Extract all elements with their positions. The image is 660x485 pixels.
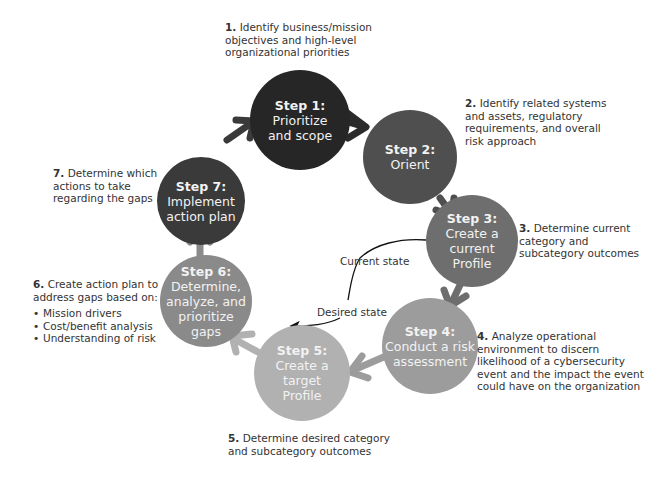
step-1-label-line: and scope <box>268 128 332 143</box>
note-4-line: Analyze operational <box>492 330 596 342</box>
step-7-circle: Step 7: Implement action plan <box>157 157 245 245</box>
arrow-step5-to-step6 <box>232 334 258 352</box>
note-3: 3. Determine current category and subcat… <box>519 222 639 260</box>
note-7: 7. Determine which actions to take regar… <box>53 167 157 205</box>
note-2-line: requirements, and overall <box>465 122 607 135</box>
step-6-circle: Step 6: Determine, analyze, and prioriti… <box>160 255 252 347</box>
step-3-circle: Step 3: Create a current Profile <box>426 195 518 287</box>
note-6-bullet: Understanding of risk <box>33 332 158 345</box>
current-state-label: Current state <box>340 255 409 267</box>
note-2-line: risk approach <box>465 135 607 148</box>
note-4-line: environment to discern <box>477 343 644 356</box>
step-3-label-line: Profile <box>453 256 492 271</box>
note-4-line: could have on the organization <box>477 380 644 393</box>
step-3-label-line: current <box>449 241 494 256</box>
note-3-line: subcategory outcomes <box>519 247 639 260</box>
note-3-number: 3. <box>519 222 530 234</box>
note-5-line: Determine desired category <box>243 432 390 444</box>
note-3-line: Determine current <box>534 222 631 234</box>
note-1-number: 1. <box>225 21 236 33</box>
step-4-label-line: assessment <box>393 354 467 369</box>
step-7-label-line: Implement <box>167 194 235 209</box>
step-7-title: Step 7: <box>176 179 226 194</box>
note-6-bullets: Mission drivers Cost/benefit analysis Un… <box>33 307 158 345</box>
note-6-bullet: Cost/benefit analysis <box>33 320 158 333</box>
note-5: 5. Determine desired category and subcat… <box>228 432 390 457</box>
step-6-label-line: gaps <box>191 324 221 339</box>
note-1: 1. Identify business/mission objectives … <box>225 21 372 59</box>
step-5-label-line: target <box>283 373 321 388</box>
note-6-number: 6. <box>33 278 44 290</box>
step-4-circle: Step 4: Conduct a risk assessment <box>382 298 478 394</box>
step-2-title: Step 2: <box>385 142 435 157</box>
note-3-line: category and <box>519 235 639 248</box>
step-6-title: Step 6: <box>181 264 231 279</box>
note-1-line: Identify business/mission <box>240 21 372 33</box>
note-1-line: organizational priorities <box>225 46 372 59</box>
step-1-title: Step 1: <box>275 98 325 113</box>
note-1-line: objectives and high-level <box>225 34 372 47</box>
step-6-label-line: prioritize <box>178 309 233 324</box>
step-1-circle: Step 1: Prioritize and scope <box>250 70 350 170</box>
note-4-line: event and the impact the event <box>477 368 644 381</box>
step-5-title: Step 5: <box>277 343 327 358</box>
step-6-label-line: Determine, <box>171 279 241 294</box>
step-3-title: Step 3: <box>447 211 497 226</box>
note-6: 6. Create action plan to address gaps ba… <box>33 278 158 345</box>
note-4-line: likelihood of a cybersecurity <box>477 355 644 368</box>
step-1-label-line: Prioritize <box>273 113 328 128</box>
step-2-circle: Step 2: Orient <box>363 110 457 204</box>
step-3-label-line: Create a <box>445 226 498 241</box>
note-7-line: regarding the gaps <box>53 192 157 205</box>
step-4-title: Step 4: <box>405 324 455 339</box>
step-5-label-line: Create a <box>275 358 328 373</box>
note-2-number: 2. <box>465 97 476 109</box>
step-5-label-line: Profile <box>283 388 322 403</box>
step-2-label-line: Orient <box>391 157 430 172</box>
note-2: 2. Identify related systems and assets, … <box>465 97 607 147</box>
note-7-line: actions to take <box>53 180 157 193</box>
desired-state-label: Desired state <box>317 306 387 318</box>
note-2-line: Identify related systems <box>480 97 607 109</box>
note-6-bullet: Mission drivers <box>33 307 158 320</box>
step-5-circle: Step 5: Create a target Profile <box>254 325 350 421</box>
note-6-line: address gaps based on: <box>33 291 158 304</box>
note-4-number: 4. <box>477 330 488 342</box>
step-4-label-line: Conduct a risk <box>385 339 475 354</box>
step-6-label-line: analyze, and <box>166 294 246 309</box>
note-2-line: and assets, regulatory <box>465 110 607 123</box>
note-4: 4. Analyze operational environment to di… <box>477 330 644 393</box>
current-to-desired-curve <box>348 240 426 300</box>
note-7-line: Determine which <box>68 167 157 179</box>
step-7-label-line: action plan <box>166 209 235 224</box>
arrow-step4-to-step5 <box>350 356 386 378</box>
note-5-number: 5. <box>228 432 239 444</box>
note-5-line: and subcategory outcomes <box>228 445 390 458</box>
note-6-line: Create action plan to <box>48 278 158 290</box>
note-7-number: 7. <box>53 167 64 179</box>
